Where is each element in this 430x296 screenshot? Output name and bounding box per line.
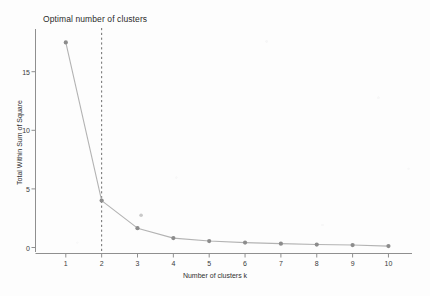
- y-tick-label: 0: [26, 244, 30, 251]
- x-tick-label: 2: [100, 260, 104, 267]
- data-point-marker: [243, 240, 247, 244]
- data-point-marker: [171, 236, 175, 240]
- x-tick-label: 3: [136, 260, 140, 267]
- x-tick-label: 7: [279, 260, 283, 267]
- plot-area: [0, 0, 430, 296]
- x-tick-label: 9: [351, 260, 355, 267]
- x-tick-label: 8: [315, 260, 319, 267]
- y-tick-label: 5: [26, 185, 30, 192]
- chart-title: Optimal number of clusters: [43, 14, 147, 24]
- x-tick-label: 10: [385, 260, 393, 267]
- wss-data-points: [64, 40, 391, 248]
- data-point-marker: [315, 242, 319, 246]
- x-tick-label: 5: [207, 260, 211, 267]
- stray-marker-artifact: [139, 213, 143, 217]
- data-point-marker: [386, 244, 390, 248]
- y-axis-title: Total Within Sum of Square: [16, 83, 23, 203]
- elbow-method-chart: Optimal number of clusters Number of clu…: [0, 0, 430, 296]
- data-point-marker: [351, 243, 355, 247]
- data-point-marker: [135, 226, 139, 230]
- x-axis-title: Number of clusters k: [0, 272, 430, 279]
- x-tick-label: 1: [64, 260, 68, 267]
- x-tick-label: 6: [243, 260, 247, 267]
- y-tick-label: 10: [22, 127, 30, 134]
- y-axis-ticks: [32, 72, 36, 248]
- data-point-marker: [207, 239, 211, 243]
- data-point-marker: [279, 242, 283, 246]
- data-point-marker: [100, 199, 104, 203]
- y-tick-label: 15: [22, 68, 30, 75]
- wss-line-series: [66, 42, 389, 246]
- stray-point-marker: [139, 213, 143, 217]
- data-point-marker: [64, 40, 68, 44]
- x-axis-ticks: [66, 254, 389, 258]
- x-tick-label: 4: [171, 260, 175, 267]
